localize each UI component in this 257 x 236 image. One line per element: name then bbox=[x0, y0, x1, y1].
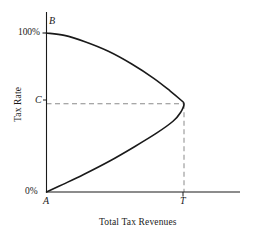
laffer-curve-figure: 100% 0% B C A T Tax Rate Total Tax Reven… bbox=[0, 0, 257, 236]
x-axis-title: Total Tax Revenues bbox=[99, 218, 177, 228]
point-label-b: B bbox=[49, 16, 55, 26]
point-label-a: A bbox=[43, 196, 49, 206]
y-tick-label-100: 100% bbox=[18, 28, 40, 38]
point-label-t: T bbox=[180, 196, 186, 206]
y-tick-label-0: 0% bbox=[25, 187, 37, 197]
y-axis-title: Tax Rate bbox=[14, 87, 24, 122]
point-label-c: C bbox=[35, 95, 42, 105]
